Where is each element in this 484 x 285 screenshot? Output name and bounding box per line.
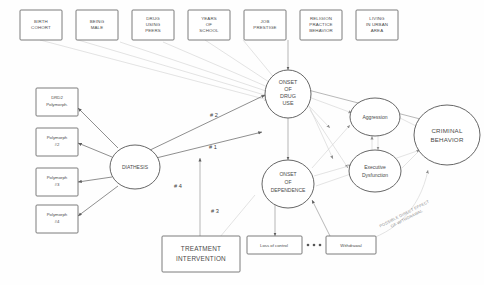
diagram-canvas: BIRTH COHORT BEING MALE DRUG USING PEERS… <box>0 0 484 285</box>
diathesis-label: DIATHESIS <box>122 164 149 170</box>
onset-drug-use-line: DRUG <box>280 93 296 99</box>
onset-dependence-line: OF <box>285 179 292 185</box>
aggression-label: Aggression <box>362 114 387 120</box>
box-withdrawal[interactable]: Withdrawal <box>326 236 376 254</box>
risk-label-line: RELIGION <box>310 16 332 21</box>
risk-label-line: BEING <box>90 19 105 24</box>
node-executive-dysfunction[interactable]: Executive Dysfunction <box>349 150 401 192</box>
polymorph-label-line: #2 <box>55 142 60 147</box>
treatment-label-line: TREATMENT <box>181 245 221 252</box>
box-loss-of-control[interactable]: Loss of control <box>247 236 302 254</box>
top-risk-factor-row: BIRTH COHORT BEING MALE DRUG USING PEERS… <box>20 10 398 40</box>
risk-label-line: PEERS <box>145 28 161 33</box>
withdrawal-label: Withdrawal <box>340 243 361 248</box>
onset-drug-use-line: OF <box>284 86 292 92</box>
risk-label-line: OF <box>206 22 213 27</box>
polymorph-label-line: #4 <box>55 219 60 224</box>
polymorph-label-line: Polymorph <box>47 175 68 180</box>
risk-label-line: AREA <box>371 28 384 33</box>
executive-dysfunction-line: Executive <box>364 164 386 170</box>
onset-drug-use-line: ONSET <box>279 79 298 85</box>
polymorph-box-2[interactable]: Polymorph #2 <box>36 128 78 156</box>
path-label-1: # 1 <box>209 144 217 150</box>
risk-label-line: YEARS <box>201 16 217 21</box>
risk-label-line: SCHOOL <box>199 28 219 33</box>
path-label-2: # 2 <box>210 112 218 118</box>
node-onset-drug-use[interactable]: ONSET OF DRUG USE <box>265 70 311 118</box>
causal-pathway-diagram: BIRTH COHORT BEING MALE DRUG USING PEERS… <box>0 0 484 285</box>
polymorph-column: DRD2 Polymorph. Polymorph #2 Polymorph #… <box>36 88 78 233</box>
edges-treatment <box>200 158 255 237</box>
polymorph-box-4[interactable]: Polymorph #4 <box>36 205 78 233</box>
onset-dependence-line: DEPENDENCE <box>271 187 306 193</box>
node-onset-dependence[interactable]: ONSET OF DEPENDENCE <box>262 160 314 208</box>
risk-label-line: COHORT <box>31 25 51 30</box>
risk-label-line: DRUG <box>146 16 160 21</box>
criminal-behavior-line: BEHAVIOR <box>430 136 463 143</box>
symptom-ellipsis <box>307 244 322 247</box>
loss-of-control-label: Loss of control <box>260 243 288 248</box>
node-criminal-behavior[interactable]: CRIMINAL BEHAVIOR <box>414 105 480 165</box>
risk-label-line: LIVING <box>369 16 385 21</box>
annotation-withdrawal-effect: POSSIBLE DIRECT EFFECT OF WITHDRAWAL <box>379 199 433 233</box>
polymorph-box-drd2[interactable]: DRD2 Polymorph. <box>36 88 78 116</box>
path-number-labels: # 2 # 1 # 4 # 3 <box>174 112 219 214</box>
node-aggression[interactable]: Aggression <box>350 98 400 136</box>
risk-box-drug-using-peers[interactable]: DRUG USING PEERS <box>132 10 174 40</box>
risk-label-line: BEHAVIOR <box>309 28 333 33</box>
risk-box-job-prestige[interactable]: JOB PRESTIGE <box>244 10 286 40</box>
box-treatment-intervention[interactable]: TREATMENT INTERVENTION <box>162 236 240 272</box>
annotation-line-1: POSSIBLE DIRECT EFFECT <box>379 199 431 229</box>
risk-box-years-of-school[interactable]: YEARS OF SCHOOL <box>188 10 230 40</box>
risk-label-line: BIRTH <box>34 19 48 24</box>
risk-box-religion-practice[interactable]: RELIGION PRACTICE BEHAVIOR <box>300 10 342 40</box>
onset-drug-use-line: USE <box>282 100 293 106</box>
polymorph-box-3[interactable]: Polymorph #3 <box>36 168 78 196</box>
treatment-label-line: INTERVENTION <box>176 255 226 262</box>
risk-label-line: PRACTICE <box>309 22 332 27</box>
executive-dysfunction-line: Dysfunction <box>362 172 388 178</box>
path-label-4: # 4 <box>174 183 182 189</box>
risk-label-line: PRESTIGE <box>253 25 276 30</box>
node-diathesis[interactable]: DIATHESIS <box>110 145 160 189</box>
polymorph-label-line: Polymorph. <box>46 102 68 107</box>
risk-label-line: MALE <box>91 25 104 30</box>
criminal-behavior-line: CRIMINAL <box>431 127 463 134</box>
risk-box-being-male[interactable]: BEING MALE <box>76 10 118 40</box>
polymorph-label-line: DRD2 <box>51 95 63 100</box>
risk-label-line: USING <box>146 22 161 27</box>
polymorph-label-line: Polymorph <box>47 212 68 217</box>
polymorph-label-line: Polymorph <box>47 135 68 140</box>
risk-label-line: IN URBAN <box>366 22 388 27</box>
risk-box-birth-cohort[interactable]: BIRTH COHORT <box>20 10 62 40</box>
polymorph-label-line: #3 <box>55 182 60 187</box>
onset-dependence-line: ONSET <box>279 171 296 177</box>
risk-box-living-urban-area[interactable]: LIVING IN URBAN AREA <box>356 10 398 40</box>
edges-diathesis-to-onsets <box>146 95 265 160</box>
risk-label-line: JOB <box>261 19 270 24</box>
path-label-3: # 3 <box>211 208 219 214</box>
